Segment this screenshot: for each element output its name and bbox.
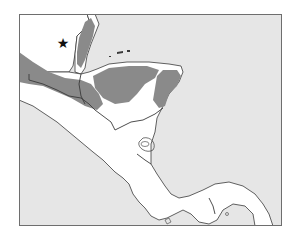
central-america-map: ★	[19, 14, 282, 226]
star-marker-icon: ★	[57, 35, 70, 51]
map-frame: ★	[19, 14, 282, 226]
